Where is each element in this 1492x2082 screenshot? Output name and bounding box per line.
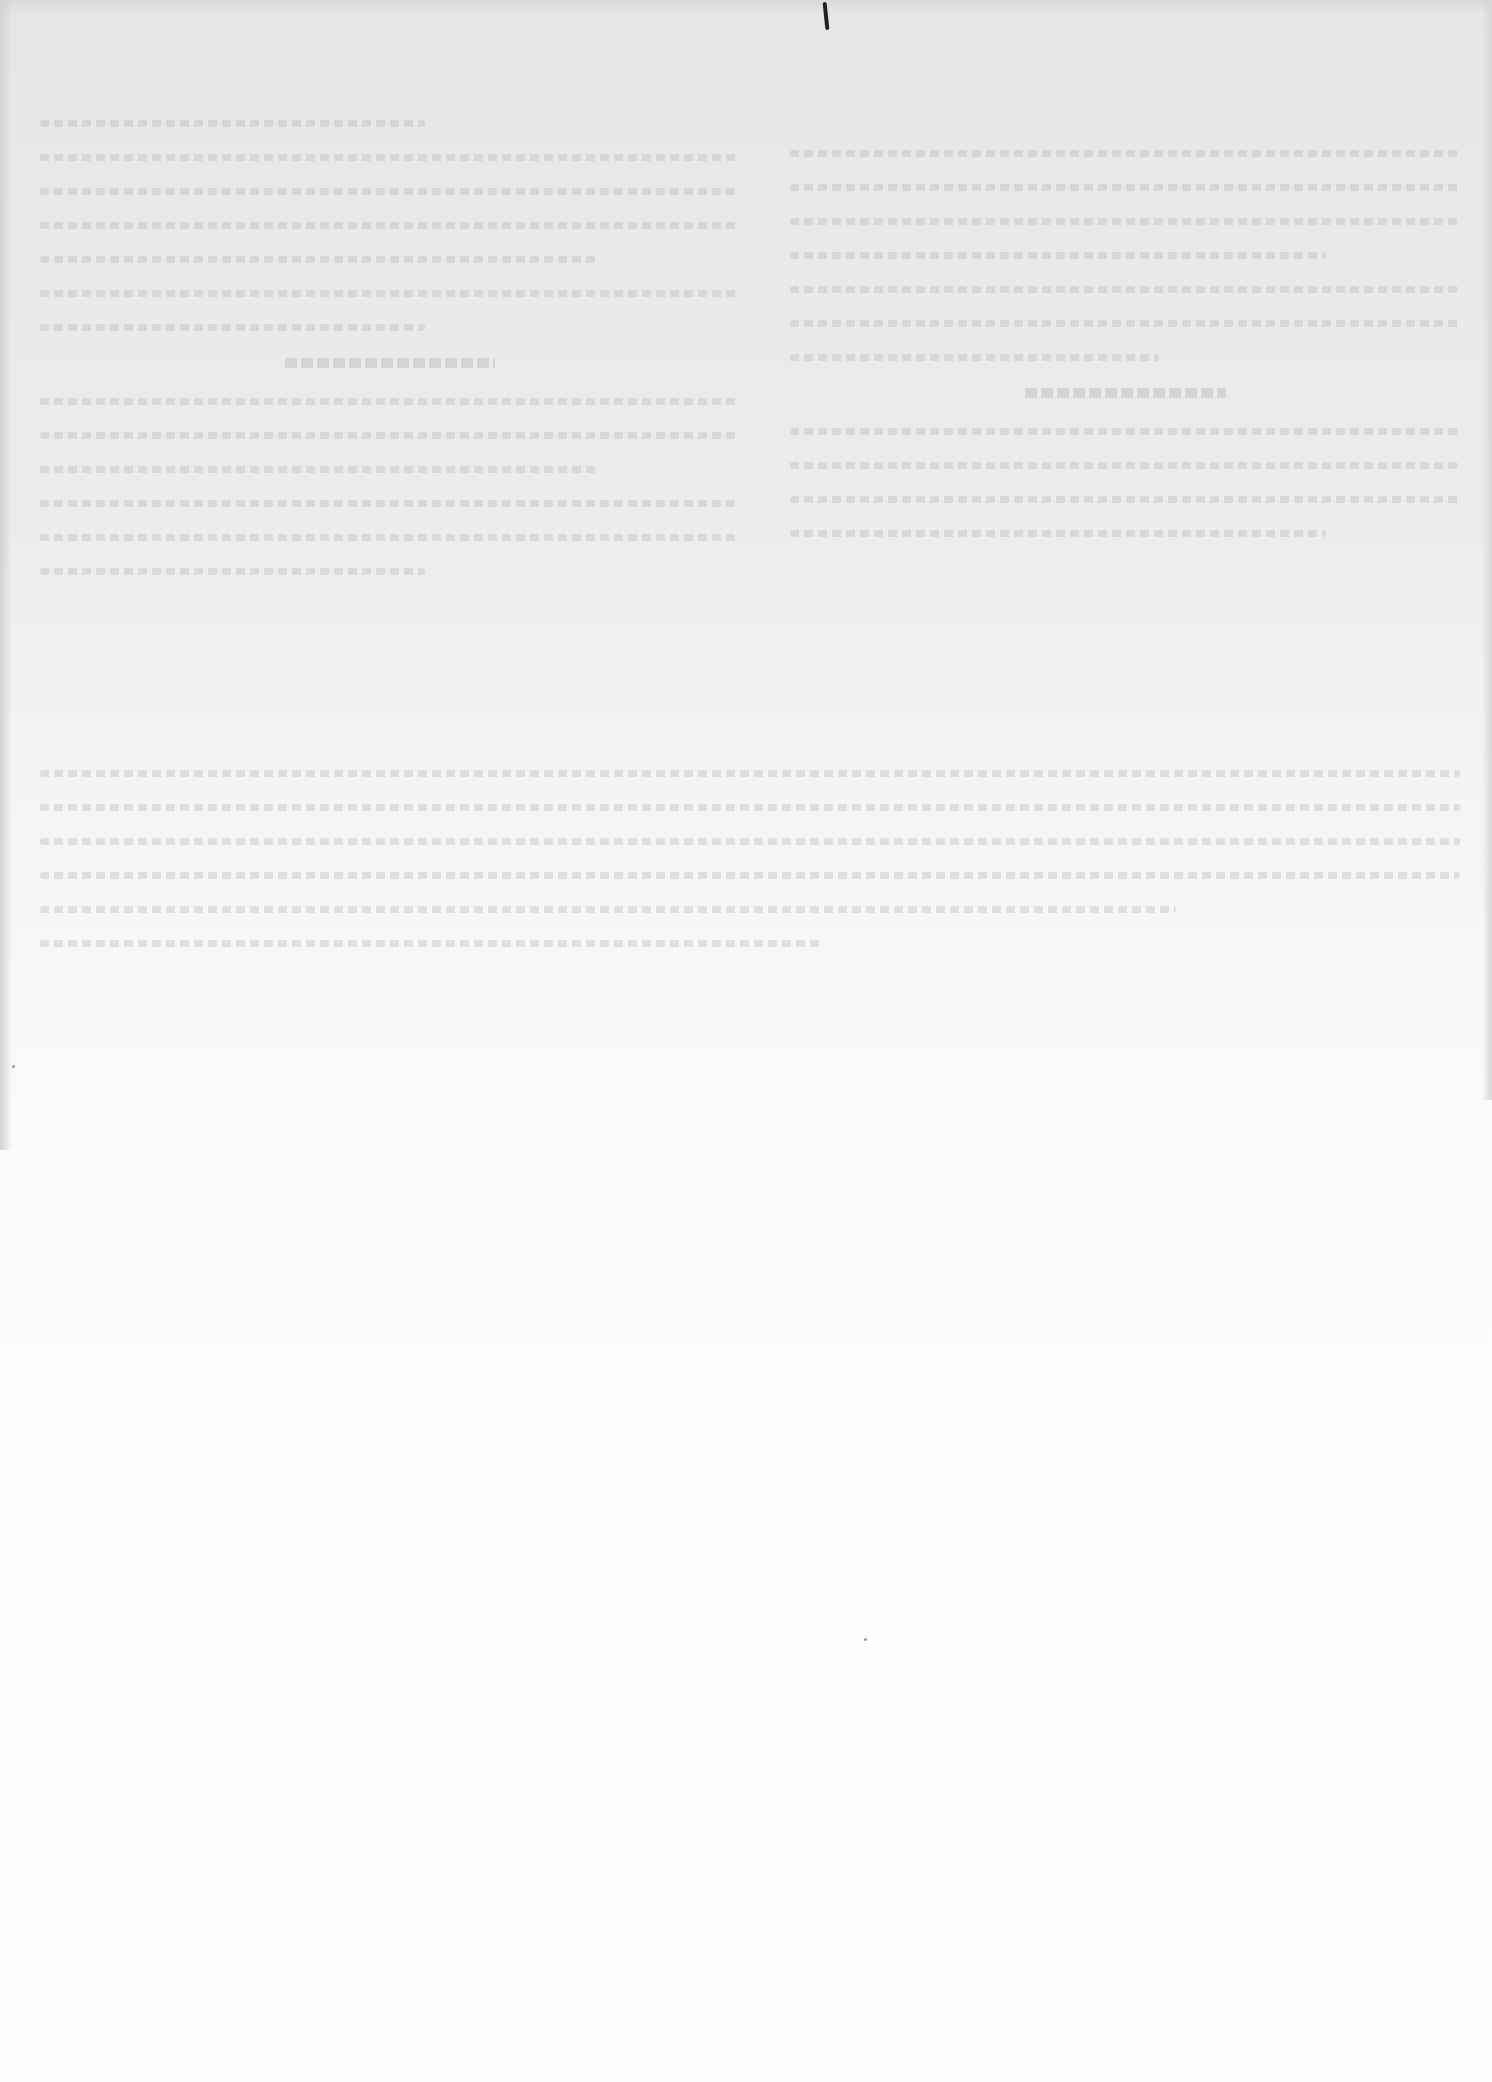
ghost-text-line [40,804,1460,811]
ghost-text-line [40,940,821,947]
ghost-text-line [40,154,740,161]
ghost-text-line [790,218,1460,225]
ghost-text-line [40,500,740,507]
ghost-text-line [790,530,1326,537]
ghost-text-line [40,290,740,297]
ghost-text-line [40,534,740,541]
ghost-text-line [40,568,425,575]
bleed-through-left-column [40,120,740,602]
bleed-through-wide-block [40,770,1460,974]
ghost-text-line [40,906,1176,913]
ghost-text-line [40,872,1460,879]
ghost-text-line [790,428,1460,435]
ghost-text-line [790,354,1159,361]
ghost-text-line [40,770,1460,777]
ghost-text-line [40,432,740,439]
ghost-heading [285,358,495,368]
page-left-shadow [0,0,12,1150]
ghost-text-line [790,184,1460,191]
ghost-text-line [790,462,1460,469]
scan-speck [12,1065,15,1068]
scan-speck [864,1638,867,1641]
ghost-text-line [40,256,600,263]
ghost-text-line [790,496,1460,503]
ghost-text-line [40,188,740,195]
ghost-text-line [40,120,425,127]
ghost-text-line [790,286,1460,293]
ghost-text-line [40,466,600,473]
page-top-shadow [0,0,1492,14]
ghost-text-line [790,320,1460,327]
page-right-shadow [1482,0,1492,1100]
ghost-text-line [40,222,740,229]
ghost-text-line [40,398,740,405]
ghost-heading [1025,388,1226,398]
bleed-through-right-column [790,150,1460,564]
ghost-text-line [790,150,1460,157]
ghost-text-line [790,252,1326,259]
ghost-text-line [40,324,425,331]
ghost-text-line [40,838,1460,845]
